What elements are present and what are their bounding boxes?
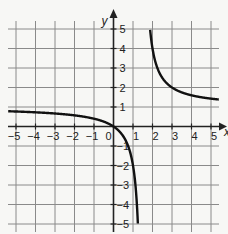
x-tick-label: −3 [47, 130, 60, 142]
y-tick-label: 2 [120, 82, 126, 94]
origin-label: 0 [105, 130, 111, 142]
y-tick-label: 5 [120, 23, 126, 35]
curve-right-branch [150, 30, 219, 100]
x-axis-label: x [223, 125, 228, 139]
x-tick-label: 5 [211, 130, 217, 142]
y-axis-arrow-icon [110, 9, 118, 18]
x-tick-label: −5 [8, 130, 21, 142]
x-tick-label: 4 [191, 130, 197, 142]
x-tick-label: −1 [86, 130, 99, 142]
y-tick-label: −5 [117, 218, 130, 230]
x-tick-label: 2 [152, 130, 158, 142]
function-graph: xy −5−4−3−2−101234512345−1−2−3−4−5 [0, 0, 228, 234]
x-tick-label: −4 [27, 130, 40, 142]
y-tick-label: −4 [117, 199, 130, 211]
y-tick-label: 4 [120, 43, 126, 55]
y-tick-label: 3 [120, 62, 126, 74]
y-tick-label: −2 [117, 160, 130, 172]
x-tick-label: 1 [133, 130, 139, 142]
y-tick-label: 1 [120, 101, 126, 113]
y-tick-label: −3 [117, 179, 130, 191]
y-axis-label: y [101, 14, 109, 28]
x-tick-label: −2 [66, 130, 79, 142]
x-tick-label: 3 [172, 130, 178, 142]
